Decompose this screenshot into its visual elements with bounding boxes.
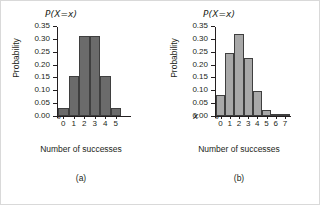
y-tick: 0.10 [211,90,215,91]
bar-slot: 2 [79,26,90,116]
bar [216,95,225,116]
panel-a-bars: 012345 [58,26,121,116]
y-tick-label: 0.10 [34,85,50,94]
bar-slot: 4 [100,26,111,116]
x-tick-label: 2 [82,119,86,128]
bar-slot: 3 [90,26,101,116]
bar-slot: 5 [111,26,122,116]
y-tick-label: 0.15 [192,72,208,81]
panel-b-x-axis-label: Number of successes [159,144,319,154]
bar-slot: 7 [280,26,289,116]
panel-b-title: P(X=x) [203,9,303,19]
panel-b-x-axis [215,116,291,117]
x-tick-label: 2 [237,119,241,128]
y-tick: 0.30 [53,39,57,40]
y-tick: 0.30 [211,39,215,40]
x-tick-label: 4 [255,119,259,128]
bar [234,34,243,116]
bar-slot: 1 [225,26,234,116]
bar [111,108,122,116]
panel-b-y-axis-label: Probability [169,23,179,93]
x-tick-label: 3 [93,119,97,128]
y-tick-label: 0.30 [34,34,50,43]
y-tick: 0.20 [211,65,215,66]
bar [100,76,111,116]
y-tick-label: 0.15 [34,72,50,81]
chart-panel-b: P(X=x) Probability // 0.000.050.100.150.… [159,1,319,204]
y-tick-label: 0.25 [34,47,50,56]
panel-a-x-axis-label: Number of successes [1,144,161,154]
y-tick: 0.05 [53,103,57,104]
panel-b-bars: 01234567 [216,26,290,116]
bar [253,91,262,116]
bar-slot: 4 [253,26,262,116]
x-tick-label: 0 [218,119,222,128]
y-tick: 0.20 [53,65,57,66]
y-tick-label: 0.25 [192,47,208,56]
binomial-distribution-figure: P(X=x) Probability // 0.000.050.100.150.… [0,0,320,205]
chart-panel-a: P(X=x) Probability // 0.000.050.100.150.… [1,1,161,204]
y-tick-label: 0.35 [34,21,50,30]
x-tick-label: 5 [114,119,118,128]
bar-slot: 0 [216,26,225,116]
x-tick-label: 7 [283,119,287,128]
panel-a-plot-area: // 0.000.050.100.150.200.250.300.35 0123… [57,27,133,117]
bar-slot: 2 [234,26,243,116]
x-tick-label: 1 [228,119,232,128]
y-tick: 0.00 [53,116,57,117]
bar-slot: 3 [244,26,253,116]
y-tick-label: 0.00 [34,111,50,120]
bar [225,53,234,117]
panel-a-y-axis-label: Probability [11,23,21,93]
y-tick-label: 0.05 [192,98,208,107]
bar [244,58,253,116]
y-tick: 0.35 [53,26,57,27]
y-tick: 0.10 [53,90,57,91]
bar [69,76,80,116]
y-tick-label: 0.05 [34,98,50,107]
y-tick: 0.25 [211,52,215,53]
y-tick-label: 0.30 [192,34,208,43]
y-tick-label: 0.10 [192,85,208,94]
y-tick-label: 0.35 [192,21,208,30]
y-tick: 0.15 [211,77,215,78]
x-tick-label: 1 [72,119,76,128]
panel-b-caption: (b) [159,173,319,183]
x-tick-label: 4 [103,119,107,128]
y-tick-label: 0.00 [192,111,208,120]
bar-slot: 6 [271,26,280,116]
bar [58,108,69,116]
bar-slot: 1 [69,26,80,116]
panel-a-title: P(X=x) [45,9,145,19]
bar [90,36,101,116]
bar [79,36,90,116]
bar-slot: 5 [262,26,271,116]
y-tick: 0.00 [211,116,215,117]
panel-b-plot-area: // 0.000.050.100.150.200.250.300.35 0123… [215,27,291,117]
bar-slot: 0 [58,26,69,116]
y-tick-label: 0.20 [34,60,50,69]
x-tick-label: 3 [246,119,250,128]
panel-a-caption: (a) [1,173,161,183]
x-tick-label: 6 [273,119,277,128]
y-tick: 0.05 [211,103,215,104]
y-tick: 0.35 [211,26,215,27]
x-tick-label: 0 [61,119,65,128]
x-tick-label: 5 [264,119,268,128]
y-tick: 0.15 [53,77,57,78]
y-tick: 0.25 [53,52,57,53]
y-tick-label: 0.20 [192,60,208,69]
